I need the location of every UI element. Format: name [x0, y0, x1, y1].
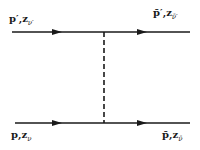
top-right-arrow-icon — [137, 29, 147, 35]
momentum: p̄′ — [153, 7, 163, 18]
subscript: ν̄′ — [172, 13, 178, 21]
subscript: ν̄ — [178, 135, 182, 143]
top-left-arrow-icon — [52, 29, 62, 35]
label-bottom-left: p,zν — [11, 130, 31, 140]
label-bottom-right: p̄,zν̄ — [162, 130, 182, 140]
label-top-right: p̄′,zν̄′ — [153, 8, 178, 18]
label-top-left: p′,zν′ — [9, 14, 34, 24]
subscript: ν′ — [28, 19, 34, 27]
z-symbol: z — [166, 7, 172, 18]
momentum: p̄ — [162, 129, 169, 140]
bottom-right-arrow-icon — [137, 120, 147, 126]
subscript: ν — [27, 135, 31, 143]
momentum: p′ — [9, 13, 19, 24]
bottom-left-arrow-icon — [52, 120, 62, 126]
z-symbol: z — [22, 13, 28, 24]
momentum: p — [11, 129, 18, 140]
